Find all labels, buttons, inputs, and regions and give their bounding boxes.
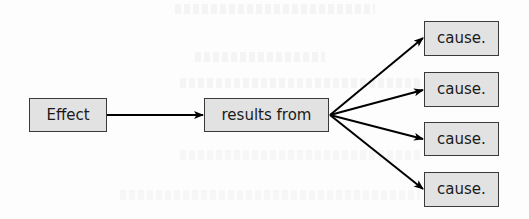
node-cause-label: cause.: [437, 132, 486, 147]
node-results-from-label: results from: [222, 108, 312, 123]
node-cause-1: cause.: [424, 21, 499, 56]
node-cause-label: cause.: [437, 82, 486, 97]
node-cause-2: cause.: [424, 72, 499, 107]
node-cause-label: cause.: [437, 182, 486, 197]
node-cause-label: cause.: [437, 31, 486, 46]
node-effect-label: Effect: [46, 108, 89, 123]
node-cause-4: cause.: [424, 172, 499, 207]
node-cause-3: cause.: [424, 122, 499, 156]
node-effect: Effect: [29, 98, 107, 132]
node-results-from: results from: [204, 98, 329, 132]
diagram-canvas: Effect results from cause. cause. cause.…: [0, 0, 529, 219]
